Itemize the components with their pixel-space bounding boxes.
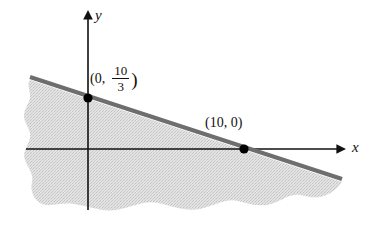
- y-axis-label: y: [95, 8, 102, 23]
- fraction-ten-thirds: 10 3: [112, 64, 129, 93]
- x-intercept-point: [239, 144, 248, 153]
- x-intercept-label: (10, 0): [205, 116, 242, 130]
- y-intercept-point: [83, 93, 92, 102]
- y-intercept-label-open: (0,: [90, 72, 105, 86]
- y-intercept-label-close: ): [131, 70, 137, 89]
- inequality-graph-figure: y x (0, 10 3 ) (10, 0): [0, 0, 374, 230]
- x-axis-label: x: [352, 140, 359, 155]
- graph-canvas: [0, 0, 374, 230]
- shaded-region: [24, 80, 342, 210]
- fraction-numerator: 10: [113, 64, 128, 78]
- fraction-denominator: 3: [116, 79, 125, 93]
- y-intercept-label: (0, 10 3 ): [90, 64, 138, 93]
